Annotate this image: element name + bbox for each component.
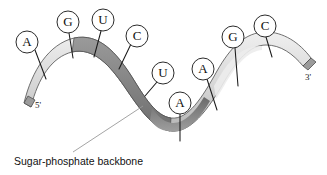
three-prime-label: 3' xyxy=(305,72,312,82)
rna-diagram: A G U C U A xyxy=(0,0,327,175)
leader-line-u2 xyxy=(145,82,157,96)
caption-label: Sugar-phosphate backbone xyxy=(14,155,143,167)
base-label-c2[interactable]: C xyxy=(254,15,276,37)
base-label-c1[interactable]: C xyxy=(126,25,148,47)
base-label-a2[interactable]: A xyxy=(169,92,191,114)
base-label-a3[interactable]: A xyxy=(192,58,214,80)
base-letter: A xyxy=(198,61,208,76)
five-prime-label: 5' xyxy=(35,100,42,110)
base-label-g1[interactable]: G xyxy=(57,11,79,33)
base-label-u1[interactable]: U xyxy=(92,9,114,31)
base-letter: G xyxy=(63,14,72,29)
base-letter: A xyxy=(175,95,185,110)
base-letter: G xyxy=(228,29,237,44)
caption-leader-line xyxy=(73,106,143,152)
base-letter: C xyxy=(261,18,270,33)
base-letter: U xyxy=(158,65,168,80)
base-letter: U xyxy=(98,12,108,27)
base-letter: C xyxy=(133,28,142,43)
base-letter: A xyxy=(22,34,32,49)
base-label-g2[interactable]: G xyxy=(222,26,244,48)
leader-line-c1 xyxy=(119,44,131,69)
base-label-u2[interactable]: U xyxy=(152,62,174,84)
base-label-a1[interactable]: A xyxy=(16,31,38,53)
rna-diagram-svg: A G U C U A xyxy=(0,0,327,175)
